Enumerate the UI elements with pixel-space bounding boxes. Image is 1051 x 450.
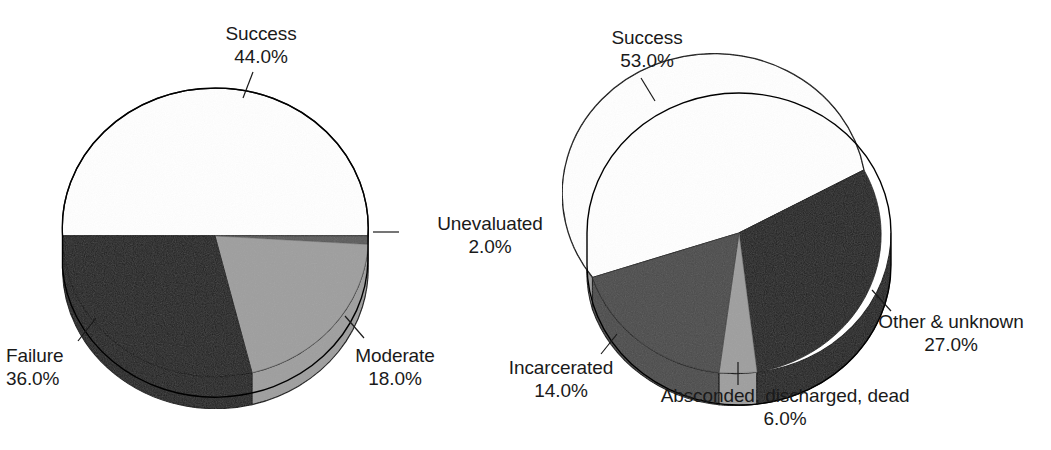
left-label-unevaluated-pct: 2.0% — [400, 235, 580, 258]
right-label-other-unknown: Other & unknown 27.0% — [856, 310, 1046, 356]
left-label-failure: Failure 36.0% — [6, 344, 116, 390]
right-label-incarcerated: Incarcerated 14.0% — [486, 356, 636, 402]
right-label-incarcerated-text: Incarcerated — [509, 357, 613, 378]
left-label-success-pct: 44.0% — [186, 45, 336, 68]
right-label-other-unknown-pct: 27.0% — [856, 333, 1046, 356]
right-label-incarcerated-pct: 14.0% — [486, 379, 636, 402]
left-label-failure-pct: 36.0% — [6, 367, 116, 390]
left-pie-top-face — [62, 88, 368, 377]
left-slice-success — [62, 88, 368, 236]
right-label-success-pct: 53.0% — [572, 49, 722, 72]
left-label-success-text: Success — [225, 23, 296, 44]
right-label-success-text: Success — [611, 27, 682, 48]
left-label-moderate-text: Moderate — [355, 345, 434, 366]
left-label-failure-text: Failure — [6, 345, 63, 366]
left-label-unevaluated: Unevaluated 2.0% — [400, 212, 580, 258]
right-label-absconded-pct: 6.0% — [650, 407, 920, 430]
left-label-success: Success 44.0% — [186, 22, 336, 68]
left-label-moderate: Moderate 18.0% — [330, 344, 460, 390]
right-pie-chart — [562, 54, 891, 406]
left-label-moderate-pct: 18.0% — [330, 367, 460, 390]
right-label-absconded-text: Absconded, discharged, dead — [661, 385, 910, 406]
right-label-other-unknown-text: Other & unknown — [878, 311, 1023, 332]
right-label-success: Success 53.0% — [572, 26, 722, 72]
left-label-unevaluated-text: Unevaluated — [437, 213, 543, 234]
right-label-absconded: Absconded, discharged, dead 6.0% — [650, 384, 920, 430]
